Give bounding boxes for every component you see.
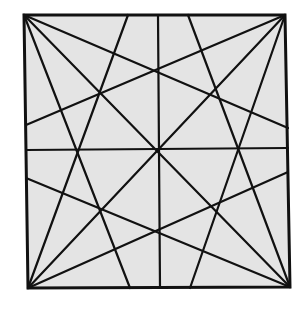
geometric-star-diagram	[0, 0, 306, 322]
